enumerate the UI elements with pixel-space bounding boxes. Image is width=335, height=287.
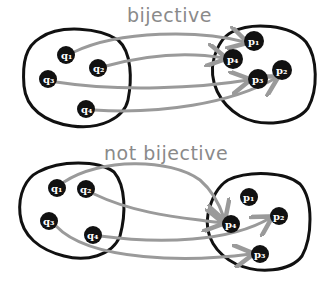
bijective-diagram: q₁ q₂ q₃ q₄ p₁ p₂ p₃ p₄ [24,26,316,127]
svg-text:q₁: q₁ [51,183,62,194]
svg-text:q₃: q₃ [43,74,54,85]
svg-text:q₃: q₃ [43,216,54,227]
diagram-canvas: bijective not bijective q₁ [0,0,335,287]
svg-text:p₃: p₃ [252,74,263,85]
svg-text:q₂: q₂ [93,63,104,74]
svg-text:q₁: q₁ [61,50,72,61]
svg-text:p₂: p₂ [273,211,284,222]
domain-nodes: q₁ q₂ q₃ q₄ [39,46,107,118]
svg-text:p₂: p₂ [276,65,287,76]
svg-text:p₁: p₁ [248,36,259,47]
svg-text:p₄: p₄ [227,54,239,65]
svg-text:p₄: p₄ [225,219,237,230]
mapping-arrows [56,34,276,111]
diagram-svg: q₁ q₂ q₃ q₄ p₁ p₂ p₃ p₄ [0,0,335,287]
domain-nodes: q₁ q₂ q₃ q₄ [40,179,102,244]
svg-text:p₃: p₃ [254,249,265,260]
svg-text:q₂: q₂ [80,184,91,195]
svg-text:q₄: q₄ [87,230,99,241]
not-bijective-diagram: q₁ q₂ q₃ q₄ p₁ p₂ p₃ p₄ [20,163,310,270]
svg-text:p₁: p₁ [243,192,254,203]
svg-text:q₄: q₄ [81,104,93,115]
